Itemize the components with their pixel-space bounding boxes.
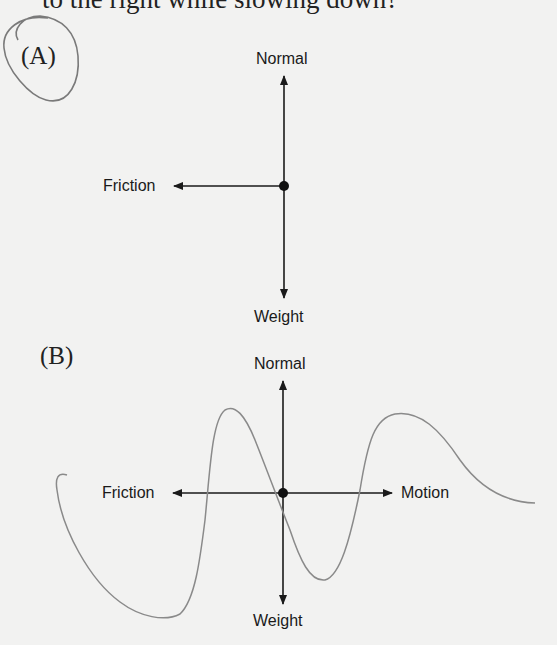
normal-label-a: Normal xyxy=(256,50,308,68)
pencil-scribble xyxy=(56,408,535,617)
weight-label-b: Weight xyxy=(253,612,303,630)
motion-label-b: Motion xyxy=(401,484,449,502)
friction-label-b: Friction xyxy=(102,484,154,502)
normal-label-b: Normal xyxy=(254,355,306,373)
object-point-b xyxy=(278,488,288,498)
object-point-a xyxy=(279,181,289,191)
option-b-label[interactable]: (B) xyxy=(40,342,73,370)
option-a-label[interactable]: (A) xyxy=(21,42,56,70)
weight-label-a: Weight xyxy=(254,308,304,326)
friction-label-a: Friction xyxy=(103,177,155,195)
free-body-diagram-a xyxy=(174,76,289,298)
